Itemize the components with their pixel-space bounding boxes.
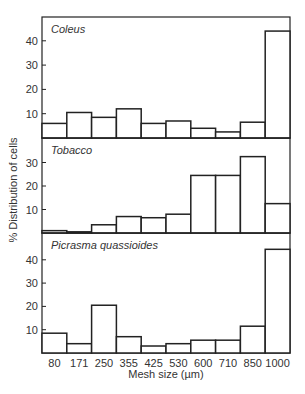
histogram-bar — [67, 344, 92, 353]
y-tick-label: 40 — [26, 254, 38, 266]
histogram-bar — [166, 344, 191, 353]
histogram-bar — [265, 31, 290, 138]
histogram-bar — [92, 305, 117, 353]
x-axis-label: Mesh size (µm) — [128, 368, 203, 380]
y-tick-label: 20 — [26, 180, 38, 192]
panel-title: Coleus — [51, 23, 86, 35]
histogram-bar — [240, 326, 265, 353]
x-tick-label: 250 — [95, 357, 113, 369]
histogram-bar — [92, 117, 117, 138]
panel-title: Picrasma quassioides — [51, 239, 158, 251]
y-tick-label: 30 — [26, 157, 38, 169]
histogram-bar — [166, 214, 191, 233]
panel-coleus: 10203040Coleus — [26, 17, 290, 138]
x-tick-label: 171 — [70, 357, 88, 369]
histogram-figure: 10203040Coleus102030Tobacco10203040Picra… — [0, 0, 305, 394]
histogram-bar — [265, 204, 290, 233]
histogram-bar — [191, 175, 216, 233]
histogram-bar — [240, 122, 265, 138]
y-tick-label: 20 — [26, 83, 38, 95]
histogram-bar — [116, 217, 141, 233]
y-tick-label: 20 — [26, 300, 38, 312]
x-tick-label: 850 — [244, 357, 262, 369]
y-tick-label: 10 — [26, 324, 38, 336]
x-tick-label: 710 — [219, 357, 237, 369]
histogram-bar — [216, 175, 241, 233]
x-tick-label: 80 — [48, 357, 60, 369]
panel-title: Tobacco — [51, 144, 92, 156]
y-tick-label: 30 — [26, 277, 38, 289]
histogram-bar — [92, 225, 117, 233]
histogram-bar — [141, 123, 166, 138]
histogram-bar — [166, 121, 191, 138]
y-tick-label: 10 — [26, 204, 38, 216]
chart-panels: 10203040Coleus102030Tobacco10203040Picra… — [26, 17, 290, 353]
histogram-bar — [42, 333, 67, 353]
histogram-bar — [191, 340, 216, 353]
histogram-bar — [265, 249, 290, 353]
y-tick-label: 10 — [26, 108, 38, 120]
y-axis-label: % Distribution of cells — [7, 137, 19, 243]
histogram-bar — [42, 123, 67, 138]
panel-tobacco: 102030Tobacco — [26, 138, 290, 233]
histogram-bar — [191, 128, 216, 138]
x-tick-label: 1000 — [265, 357, 289, 369]
histogram-bar — [216, 132, 241, 138]
histogram-bar — [141, 346, 166, 353]
y-tick-label: 30 — [26, 59, 38, 71]
histogram-bar — [240, 157, 265, 233]
y-tick-label: 40 — [26, 35, 38, 47]
histogram-bar — [116, 109, 141, 138]
histogram-bar — [141, 218, 166, 233]
histogram-bar — [67, 112, 92, 138]
histogram-bar — [216, 340, 241, 353]
panel-picrasma-quassioides: 10203040Picrasma quassioides — [26, 233, 290, 353]
histogram-bar — [116, 337, 141, 353]
